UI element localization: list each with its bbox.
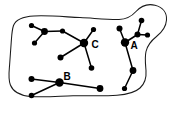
node-a5 bbox=[145, 32, 150, 37]
node-a7 bbox=[122, 86, 127, 91]
node-b4 bbox=[97, 85, 104, 92]
node-b1 bbox=[29, 76, 35, 82]
label-b: B bbox=[63, 71, 70, 82]
node-a2 bbox=[121, 38, 129, 46]
cluster-diagram-figure: ABC bbox=[0, 0, 176, 113]
node-c3 bbox=[32, 40, 37, 45]
label-a: A bbox=[130, 40, 137, 51]
node-c5 bbox=[80, 39, 88, 47]
node-b3 bbox=[29, 93, 35, 99]
node-c1 bbox=[29, 23, 34, 28]
diagram-canvas: ABC bbox=[0, 0, 176, 113]
node-c4 bbox=[60, 28, 65, 33]
label-c: C bbox=[91, 39, 98, 50]
node-c7 bbox=[58, 55, 64, 61]
node-c2 bbox=[41, 28, 48, 35]
node-a6 bbox=[130, 67, 137, 74]
node-a4 bbox=[139, 18, 145, 24]
node-a1 bbox=[117, 26, 123, 32]
node-c6 bbox=[91, 27, 96, 32]
node-a3 bbox=[135, 32, 141, 38]
node-c8 bbox=[89, 65, 95, 71]
